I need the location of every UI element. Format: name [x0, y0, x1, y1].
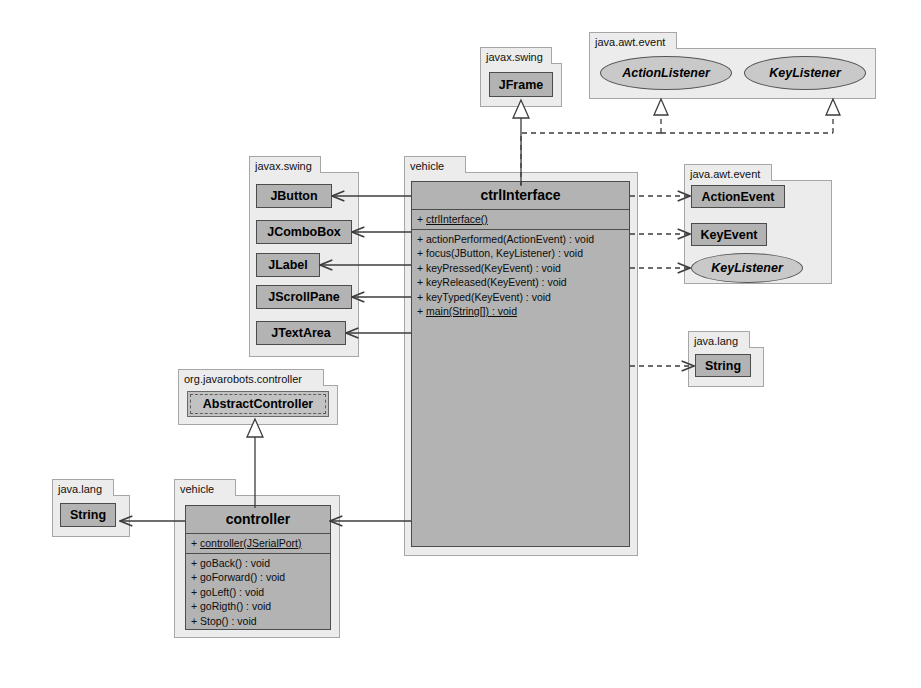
class-string-left-label: String [63, 508, 113, 522]
package-tab-java-awt-event-top: java.awt.event [589, 32, 677, 49]
class-controller-constructors: +controller(JSerialPort) [186, 534, 330, 553]
class-member: +Stop() : void [186, 614, 330, 629]
class-member: +goRigth() : void [186, 599, 330, 614]
member-visibility: + [191, 570, 200, 585]
interface-keylistener-right-label: KeyListener [711, 261, 783, 275]
class-jcombobox-label: JComboBox [260, 225, 348, 239]
class-jscrollpane[interactable]: JScrollPane [256, 285, 352, 309]
class-string-right[interactable]: String [695, 354, 751, 377]
member-signature: actionPerformed(ActionEvent) : void [426, 233, 594, 245]
member-visibility: + [417, 212, 426, 227]
package-tab-vehicle-top: vehicle [404, 156, 466, 173]
class-member: +goLeft() : void [186, 585, 330, 600]
class-string-left[interactable]: String [60, 503, 116, 527]
class-abstractcontroller-label: AbstractController [196, 397, 320, 411]
member-signature: goLeft() : void [200, 586, 264, 598]
class-member: +keyPressed(KeyEvent) : void [412, 261, 629, 276]
class-actionevent[interactable]: ActionEvent [691, 185, 785, 208]
class-ctrlinterface-constructors: +ctrlInterface() [412, 210, 629, 229]
member-visibility: + [417, 261, 426, 276]
member-visibility: + [417, 246, 426, 261]
class-keyevent[interactable]: KeyEvent [691, 223, 767, 246]
package-tab-java-awt-event-right: java.awt.event [684, 164, 772, 181]
member-visibility: + [417, 275, 426, 290]
class-jscrollpane-label: JScrollPane [261, 290, 347, 304]
member-signature: controller(JSerialPort) [200, 537, 302, 549]
class-controller[interactable]: controller +controller(JSerialPort) +goB… [185, 505, 331, 630]
member-visibility: + [191, 614, 200, 629]
class-member: +goForward() : void [186, 570, 330, 585]
package-tab-vehicle-bottom: vehicle [174, 479, 236, 496]
package-tab-javax-swing-top: javax.swing [480, 47, 552, 64]
class-controller-label: controller [186, 506, 330, 534]
class-jframe-label: JFrame [492, 78, 550, 92]
class-actionevent-label: ActionEvent [695, 190, 782, 204]
member-signature: goBack() : void [200, 557, 270, 569]
interface-keylistener-right[interactable]: KeyListener [691, 253, 803, 283]
class-abstractcontroller[interactable]: AbstractController [187, 391, 329, 417]
member-signature: goRigth() : void [200, 600, 271, 612]
class-controller-methods: +goBack() : void +goForward() : void +go… [186, 553, 330, 631]
class-ctrlinterface-methods: +actionPerformed(ActionEvent) : void +fo… [412, 229, 629, 321]
class-member: +goBack() : void [186, 556, 330, 571]
class-ctrlinterface[interactable]: ctrlInterface +ctrlInterface() +actionPe… [411, 181, 630, 547]
member-visibility: + [191, 599, 200, 614]
class-jbutton-label: JButton [263, 189, 324, 203]
member-signature: ctrlInterface() [426, 213, 488, 225]
member-signature: focus(JButton, KeyListener) : void [426, 247, 583, 259]
class-jbutton[interactable]: JButton [256, 184, 332, 208]
class-member: +controller(JSerialPort) [186, 536, 330, 551]
member-visibility: + [191, 536, 200, 551]
class-string-right-label: String [698, 359, 748, 373]
class-jlabel[interactable]: JLabel [256, 253, 320, 277]
member-signature: keyReleased(KeyEvent) : void [426, 276, 567, 288]
package-tab-javax-swing-left: javax.swing [249, 156, 321, 173]
member-signature: keyTyped(KeyEvent) : void [426, 291, 551, 303]
class-jtextarea-label: JTextArea [264, 326, 338, 340]
class-member: +focus(JButton, KeyListener) : void [412, 246, 629, 261]
package-tab-org-javarobots-controller: org.javarobots.controller [178, 369, 324, 386]
package-tab-java-lang-left: java.lang [52, 479, 114, 496]
uml-diagram-canvas: javax.swing JFrame java.awt.event Action… [0, 0, 921, 688]
interface-actionlistener[interactable]: ActionListener [600, 56, 732, 90]
interface-actionlistener-label: ActionListener [622, 66, 710, 80]
class-jlabel-label: JLabel [261, 258, 315, 272]
class-jtextarea[interactable]: JTextArea [256, 321, 346, 345]
interface-keylistener-top-label: KeyListener [769, 66, 841, 80]
member-signature: Stop() : void [200, 615, 257, 627]
member-visibility: + [417, 232, 426, 247]
class-ctrlinterface-label: ctrlInterface [412, 182, 629, 210]
class-member: +keyReleased(KeyEvent) : void [412, 275, 629, 290]
class-member: +ctrlInterface() [412, 212, 629, 227]
package-tab-java-lang-right: java.lang [688, 331, 750, 348]
interface-keylistener-top[interactable]: KeyListener [744, 56, 866, 90]
member-visibility: + [191, 585, 200, 600]
class-member: +main(String[]) : void [412, 304, 629, 319]
class-jcombobox[interactable]: JComboBox [256, 220, 352, 244]
member-signature: goForward() : void [200, 571, 285, 583]
class-member: +actionPerformed(ActionEvent) : void [412, 232, 629, 247]
class-member: +keyTyped(KeyEvent) : void [412, 290, 629, 305]
member-visibility: + [191, 556, 200, 571]
class-keyevent-label: KeyEvent [694, 228, 765, 242]
class-jframe[interactable]: JFrame [489, 72, 553, 97]
member-visibility: + [417, 304, 426, 319]
member-signature: keyPressed(KeyEvent) : void [426, 262, 561, 274]
member-signature: main(String[]) : void [426, 305, 517, 317]
member-visibility: + [417, 290, 426, 305]
